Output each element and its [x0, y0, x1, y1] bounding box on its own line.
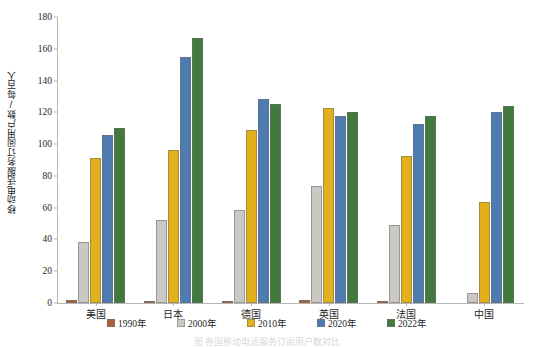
bar: [491, 112, 502, 303]
legend-item[interactable]: 2010年: [247, 316, 287, 330]
y-axis-tick-label: 40: [43, 234, 53, 244]
legend-swatch-icon: [387, 319, 395, 327]
x-axis-line: [57, 303, 524, 304]
bar: [222, 301, 233, 303]
bar: [479, 202, 490, 303]
bar-group: 中国: [445, 17, 523, 303]
bar-group: 德国: [212, 17, 290, 303]
bar: [168, 150, 179, 303]
y-axis-tick-label: 60: [43, 203, 53, 213]
y-axis-tick-label: 20: [43, 266, 53, 276]
bar: [467, 293, 478, 303]
bar: [246, 130, 257, 303]
legend-item[interactable]: 2000年: [177, 316, 217, 330]
legend-swatch-icon: [247, 319, 255, 327]
bar: [311, 186, 322, 303]
bar: [102, 135, 113, 303]
chart-legend: 1990年2000年2010年2020年2022年: [0, 316, 534, 330]
bar-group: 英国: [290, 17, 368, 303]
bar: [114, 128, 125, 303]
y-axis-tick-label: 100: [38, 139, 52, 149]
bar-group: 法国: [368, 17, 446, 303]
y-axis-tick-label: 140: [38, 76, 52, 86]
legend-label: 1990年: [118, 316, 147, 330]
legend-swatch-icon: [177, 319, 185, 327]
legend-label: 2000年: [188, 316, 217, 330]
y-axis-tick-label: 160: [38, 44, 52, 54]
y-axis-tick-label: 120: [38, 107, 52, 117]
bar-group: 美国: [57, 17, 135, 303]
bar: [425, 116, 436, 303]
bar: [323, 108, 334, 303]
legend-label: 2022年: [398, 316, 427, 330]
bar: [377, 301, 388, 303]
legend-swatch-icon: [317, 319, 325, 327]
bar: [347, 112, 358, 303]
bar: [270, 104, 281, 303]
bar-group: 日本: [135, 17, 213, 303]
bar: [401, 156, 412, 303]
bar: [413, 124, 424, 303]
bar: [78, 242, 89, 303]
plot-area: 020406080100120140160180美国日本德国英国法国中国: [57, 17, 523, 303]
bar: [389, 225, 400, 303]
y-axis-tick-label: 80: [43, 171, 53, 181]
bar: [335, 116, 346, 303]
legend-item[interactable]: 2020年: [317, 316, 357, 330]
bar: [258, 99, 269, 303]
bar: [299, 300, 310, 303]
bar-chart: 移动电话服务订阅用户数/每百人 020406080100120140160180…: [0, 0, 534, 347]
legend-label: 2010年: [258, 316, 287, 330]
legend-swatch-icon: [107, 319, 115, 327]
figure-caption: 图 各国移动电话服务订阅用户数对比: [0, 335, 534, 347]
bar: [180, 57, 191, 303]
bar: [234, 210, 245, 303]
bar: [66, 300, 77, 303]
bar: [503, 106, 514, 303]
y-axis-tick-label: 180: [38, 12, 52, 22]
y-axis-tick-label: 0: [47, 298, 52, 308]
bar: [90, 158, 101, 303]
bar: [144, 301, 155, 303]
legend-label: 2020年: [328, 316, 357, 330]
legend-item[interactable]: 1990年: [107, 316, 147, 330]
y-axis-title: 移动电话服务订阅用户数/每百人: [6, 70, 24, 214]
bar: [156, 220, 167, 303]
legend-item[interactable]: 2022年: [387, 316, 427, 330]
bar: [192, 38, 203, 303]
